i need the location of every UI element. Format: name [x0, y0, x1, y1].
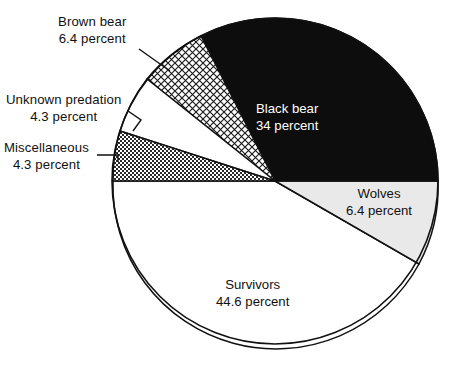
- slice-label-survivors-value: 44.6 percent: [216, 294, 289, 309]
- callout-unknown-predation-value: 4.3 percent: [6, 109, 121, 126]
- slice-label-black-bear: Black bear 34 percent: [256, 101, 318, 134]
- callout-brown-bear: Brown bear 6.4 percent: [58, 14, 126, 47]
- pie-chart-figure: Brown bear 6.4 percent Unknown predation…: [0, 0, 456, 365]
- slice-label-wolves-value: 6.4 percent: [346, 203, 412, 218]
- slice-label-black-bear-value: 34 percent: [256, 118, 318, 133]
- callout-brown-bear-name: Brown bear: [58, 14, 126, 31]
- callout-unknown-predation: Unknown predation 4.3 percent: [6, 92, 121, 125]
- callout-miscellaneous-name: Miscellaneous: [4, 140, 89, 157]
- slice-label-wolves: Wolves 6.4 percent: [346, 186, 412, 219]
- slice-label-wolves-name: Wolves: [357, 186, 400, 201]
- callout-brown-bear-value: 6.4 percent: [58, 31, 126, 48]
- pie-chart-canvas: [0, 0, 456, 365]
- callout-miscellaneous: Miscellaneous 4.3 percent: [4, 140, 89, 173]
- callout-unknown-predation-name: Unknown predation: [6, 92, 121, 109]
- callout-miscellaneous-value: 4.3 percent: [4, 157, 89, 174]
- slice-label-black-bear-name: Black bear: [256, 101, 318, 116]
- slice-label-survivors: Survivors 44.6 percent: [216, 277, 289, 310]
- slice-label-survivors-name: Survivors: [225, 277, 280, 292]
